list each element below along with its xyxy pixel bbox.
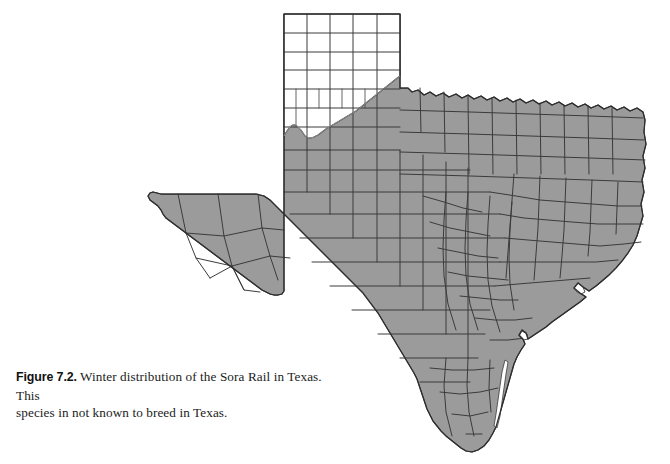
figure-caption: Figure 7.2. Winter distribution of the S…	[16, 368, 346, 422]
figure-number-label: Figure 7.2.	[16, 370, 77, 384]
caption-line-2: species in not known to breed in Texas.	[16, 404, 346, 422]
figure-page: Figure 7.2. Winter distribution of the S…	[0, 0, 670, 464]
caption-line-1: Figure 7.2. Winter distribution of the S…	[16, 368, 346, 404]
